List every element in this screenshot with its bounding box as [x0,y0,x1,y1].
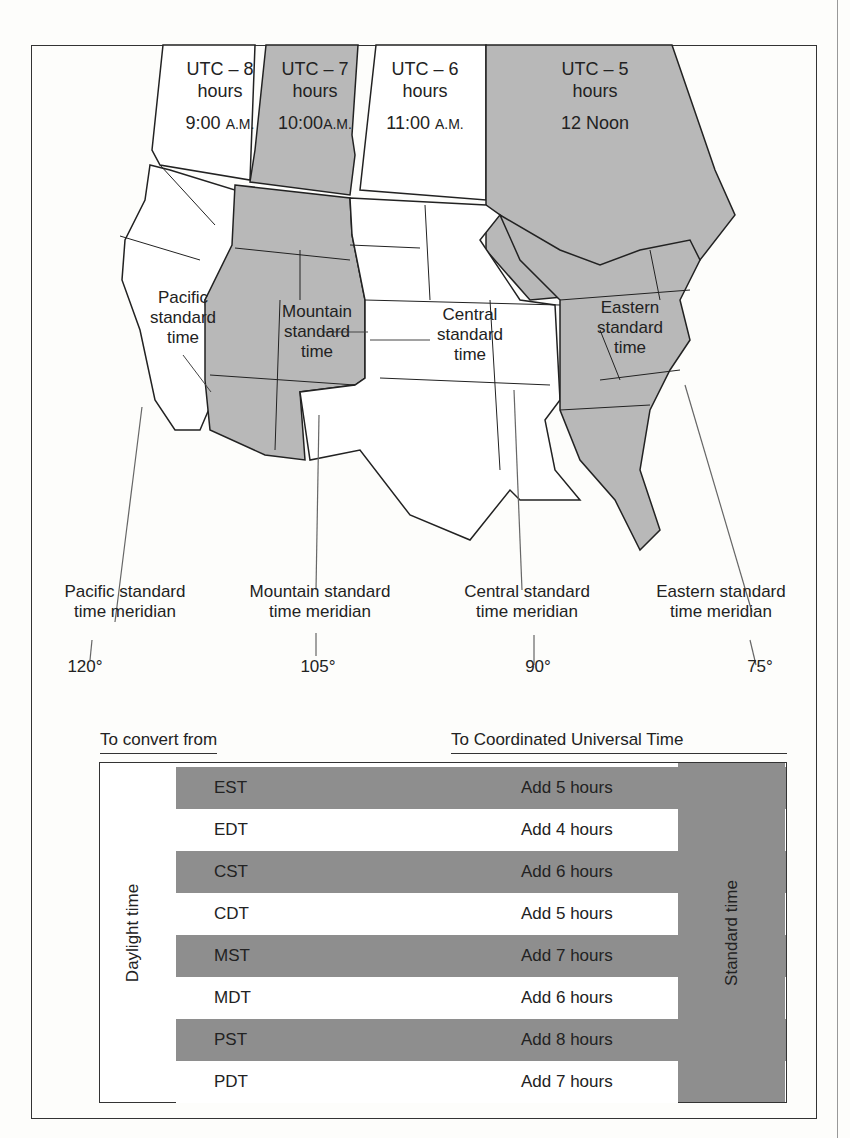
table-row: CSTAdd 6 hours [176,851,786,893]
region-label-mountain: Mountainstandardtime [262,302,372,362]
meridian-label-eastern: Eastern standardtime meridian [636,582,806,622]
zone-label-utc-7: UTC – 7 hours 10:00A.M. [270,58,360,135]
table-row: ESTAdd 5 hours [176,767,786,809]
region-label-eastern: Easternstandardtime [580,298,680,358]
table-row: PDTAdd 7 hours [176,1061,678,1103]
region-label-pacific: Pacificstandardtime [128,288,238,348]
meridian-degrees-90: 90° [508,657,568,677]
table-row: PSTAdd 8 hours [176,1019,786,1061]
header-convert-from: To convert from [100,730,217,754]
region-label-central: Centralstandardtime [420,305,520,365]
conversion-table: ESTAdd 5 hours EDTAdd 4 hours CSTAdd 6 h… [99,762,787,1103]
meridian-degrees-75: 75° [730,657,790,677]
meridian-label-central: Central standardtime meridian [442,582,612,622]
zone-label-utc-8: UTC – 8 hours 9:00 A.M. [175,58,265,135]
header-to-utc: To Coordinated Universal Time [451,730,787,754]
meridian-label-mountain: Mountain standardtime meridian [235,582,405,622]
zone-label-utc-5: UTC – 5 hours 12 Noon [540,58,650,134]
zone-label-utc-6: UTC – 6 hours 11:00 A.M. [375,58,475,135]
standard-time-label: Standard time [722,878,742,988]
daylight-time-label: Daylight time [123,878,143,988]
meridian-degrees-105: 105° [288,657,348,677]
table-row: CDTAdd 5 hours [176,893,678,935]
meridian-label-pacific: Pacific standardtime meridian [40,582,210,622]
table-row: EDTAdd 4 hours [176,809,678,851]
table-row: MDTAdd 6 hours [176,977,678,1019]
meridian-degrees-120: 120° [55,657,115,677]
table-row: MSTAdd 7 hours [176,935,786,977]
